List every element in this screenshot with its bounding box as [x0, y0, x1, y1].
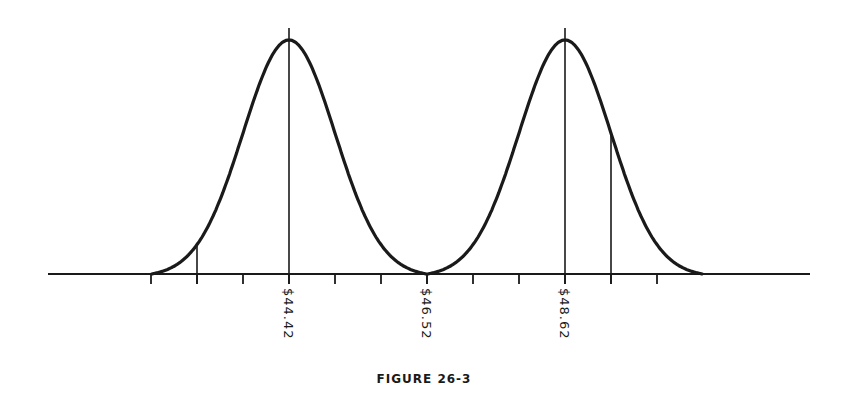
tick-label-48-62: $48.62	[557, 288, 572, 340]
normal-curves-figure	[0, 0, 848, 409]
figure-caption: FIGURE 26-3	[0, 372, 848, 386]
axis-ticks	[151, 274, 657, 284]
tick-label-46-52: $46.52	[419, 288, 434, 340]
marker-lines	[197, 28, 611, 284]
tick-label-44-42: $44.42	[281, 288, 296, 340]
